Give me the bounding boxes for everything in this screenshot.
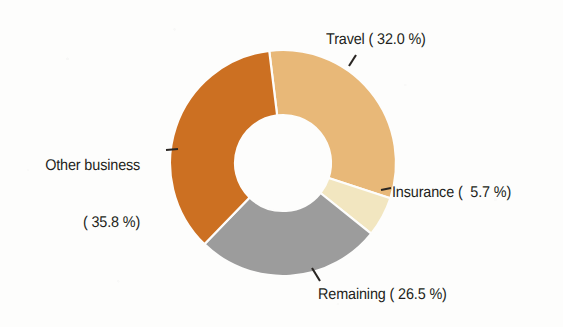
- slice-label-other-business-line2: ( 35.8 %): [45, 213, 140, 232]
- slice-label-other-business-line1: Other business: [45, 156, 140, 175]
- other-business-leader-tick: [166, 149, 178, 150]
- donut-slices: [170, 50, 396, 276]
- slice-label-remaining: Remaining ( 26.5 %): [318, 285, 447, 304]
- slice-label-travel: Travel ( 32.0 %): [326, 30, 426, 49]
- slice-label-other-business: Other business ( 35.8 %): [45, 118, 140, 270]
- chart-page: Travel ( 32.0 %) Other business ( 35.8 %…: [0, 0, 563, 327]
- travel-leader-tick: [349, 55, 356, 66]
- slice-label-insurance: Insurance ( 5.7 %): [392, 183, 511, 202]
- slice-travel[interactable]: [269, 50, 396, 198]
